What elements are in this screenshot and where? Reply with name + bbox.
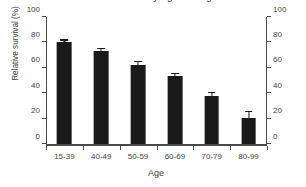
error-bar-cap [134,61,142,62]
x-axis-title: Age [45,168,267,178]
y-tick-label-left: 80 [31,29,40,38]
x-tick [83,146,84,150]
error-bar-cap [171,73,179,74]
error-bar-line [248,112,249,118]
y-tick-right [267,16,271,17]
y-tick-label-right: 20 [273,106,282,115]
error-bar-line [174,74,175,76]
y-tick-label-left: 20 [31,106,40,115]
bar [168,76,183,144]
x-tick-label: 80-99 [238,152,258,161]
y-tick-label-right: 40 [273,80,282,89]
y-tick-label-right: 60 [273,55,282,64]
error-bar-line [64,41,65,42]
error-bar-line [211,93,212,96]
x-tick-label: 60-69 [165,152,185,161]
y-tick-left [42,143,46,144]
y-tick-label-left: 60 [31,55,40,64]
x-tick [157,146,158,150]
error-bar-cap [97,48,105,49]
x-tick-label: 50-59 [128,152,148,161]
x-tick-label: 40-49 [91,152,111,161]
plot-area: 020406080100 020406080100 15-3940-4950-5… [46,17,267,146]
error-bar-line [101,49,102,51]
bar [131,65,146,145]
error-bar-cap [208,92,216,93]
chart-figure: Relative survival by age at diagnosis Re… [0,0,306,187]
x-tick [46,146,47,150]
y-tick-right [267,92,271,93]
bar [204,96,219,144]
y-tick-label-left: 0 [36,131,40,140]
x-tick-label: 15-39 [54,152,74,161]
bar [94,51,109,145]
chart-title: Relative survival by age at diagnosis [0,0,306,2]
y-tick-label-left: 100 [27,4,40,13]
error-bar-line [138,62,139,65]
y-axis-title: Relative survival (%) [11,0,20,99]
y-tick-left [42,67,46,68]
bar [241,118,256,145]
x-tick [230,146,231,150]
y-axis-left-spine [46,17,47,146]
x-tick [120,146,121,150]
bar [57,42,72,145]
y-axis-right-spine [266,17,267,146]
x-tick [267,146,268,150]
y-tick-label-right: 100 [273,4,286,13]
x-tick-label: 70-79 [202,152,222,161]
y-tick-label-left: 40 [31,80,40,89]
error-bar-cap [245,111,253,112]
x-tick [193,146,194,150]
y-tick-right [267,118,271,119]
y-tick-left [42,92,46,93]
y-tick-right [267,143,271,144]
y-tick-label-right: 80 [273,29,282,38]
y-tick-left [42,16,46,17]
error-bar-cap [61,39,69,40]
y-tick-right [267,41,271,42]
y-tick-left [42,41,46,42]
y-tick-right [267,67,271,68]
y-tick-left [42,118,46,119]
y-tick-label-right: 0 [273,131,277,140]
